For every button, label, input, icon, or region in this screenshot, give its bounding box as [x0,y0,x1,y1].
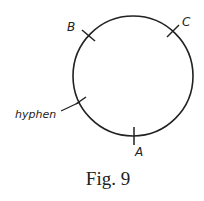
circle [73,16,193,136]
label-c: C [182,15,191,29]
leader-hyphen [61,102,80,111]
mark-a: A [134,127,143,159]
label-b: B [67,20,75,34]
circle-diagram: B C hyphen A Fig. 9 [0,0,204,201]
label-hyphen: hyphen [15,108,56,121]
mark-hyphen: hyphen [15,97,86,121]
mark-c: C [167,15,191,37]
label-a: A [134,145,143,159]
figure-caption: Fig. 9 [86,168,130,189]
mark-b: B [67,20,95,41]
